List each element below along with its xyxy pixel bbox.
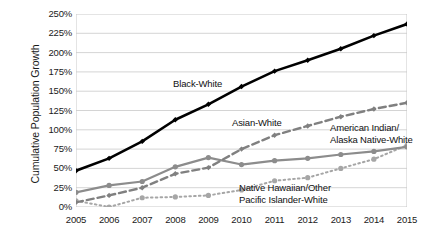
series-label-nhpi-line1: Native Hawaiian/Other [239,182,331,194]
plot-svg [76,14,407,207]
series-label-american-indian-alaska-native-white: American Indian/ Alaska Native-White [330,122,413,145]
series-label-asian-white: Asian-White [232,117,282,129]
series-label-nhpi-line2: Pacific Islander-White [239,194,331,206]
x-tick-label: 2015 [385,215,425,225]
series-label-native-hawaiian-pacific-islander-white: Native Hawaiian/Other Pacific Islander-W… [239,182,331,205]
plot-area [76,14,407,207]
cumulative-population-growth-chart: Cumulative Population Growth 0%25%50%75%… [0,0,425,240]
series-label-aian-line1: American Indian/ [330,122,413,134]
series-label-black-white: Black-White [173,78,222,90]
series-label-aian-line2: Alaska Native-White [330,134,413,146]
